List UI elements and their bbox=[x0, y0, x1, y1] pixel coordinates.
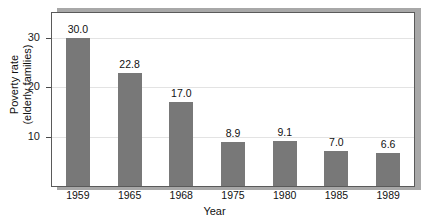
bar bbox=[324, 151, 348, 186]
y-axis-tick bbox=[46, 38, 51, 39]
bar bbox=[169, 102, 193, 186]
bar-value-label: 22.8 bbox=[110, 59, 150, 70]
bar-chart-figure: 102030 30.022.817.08.99.17.06.6 19591965… bbox=[0, 0, 429, 221]
y-axis-tick bbox=[46, 137, 51, 138]
x-axis-tick-label: 1980 bbox=[261, 190, 309, 201]
bars-layer bbox=[52, 13, 414, 186]
bar bbox=[273, 141, 297, 186]
bar-value-label: 9.1 bbox=[265, 127, 305, 138]
y-axis-title-line-2: (elderly families) bbox=[20, 21, 33, 149]
x-axis-tick-label: 1968 bbox=[157, 190, 205, 201]
bar-value-label: 30.0 bbox=[58, 24, 98, 35]
y-axis-tick bbox=[46, 87, 51, 88]
bar-value-label: 8.9 bbox=[213, 128, 253, 139]
y-axis-title: Poverty rate (elderly families) bbox=[8, 21, 33, 149]
y-axis-title-line-1: Poverty rate bbox=[8, 21, 21, 149]
bar bbox=[376, 153, 400, 186]
x-axis-tick-label: 1985 bbox=[312, 190, 360, 201]
bar bbox=[118, 73, 142, 186]
bar bbox=[66, 38, 90, 186]
bar-value-label: 6.6 bbox=[368, 139, 408, 150]
x-axis-tick-label: 1989 bbox=[364, 190, 412, 201]
bar bbox=[221, 142, 245, 186]
x-axis-tick-label: 1965 bbox=[106, 190, 154, 201]
x-axis-tick-label: 1959 bbox=[54, 190, 102, 201]
bar-value-label: 7.0 bbox=[316, 137, 356, 148]
bar-value-label: 17.0 bbox=[161, 88, 201, 99]
x-axis-tick-label: 1975 bbox=[209, 190, 257, 201]
x-axis-title: Year bbox=[0, 205, 429, 217]
